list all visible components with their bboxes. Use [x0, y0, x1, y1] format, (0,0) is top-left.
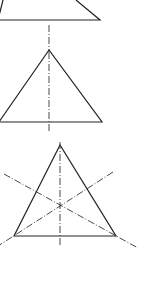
- triangles-diagram: [0, 0, 160, 281]
- top-triangle: [0, 0, 100, 20]
- middle-triangle: [0, 50, 102, 122]
- bottom-diagonal-axis-1: [4, 174, 138, 248]
- diagram-canvas: [0, 0, 160, 281]
- bottom-diagonal-axis-2: [0, 172, 113, 246]
- bottom-triangle: [14, 145, 116, 236]
